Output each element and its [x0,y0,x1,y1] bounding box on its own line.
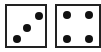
pip-icon [63,35,71,43]
die-three [5,4,47,48]
pip-icon [85,11,93,19]
pip-icon [85,35,93,43]
pip-icon [63,11,71,19]
die-four [55,4,101,48]
pip-icon [13,35,21,43]
pip-icon [23,24,31,32]
pip-icon [35,12,43,20]
